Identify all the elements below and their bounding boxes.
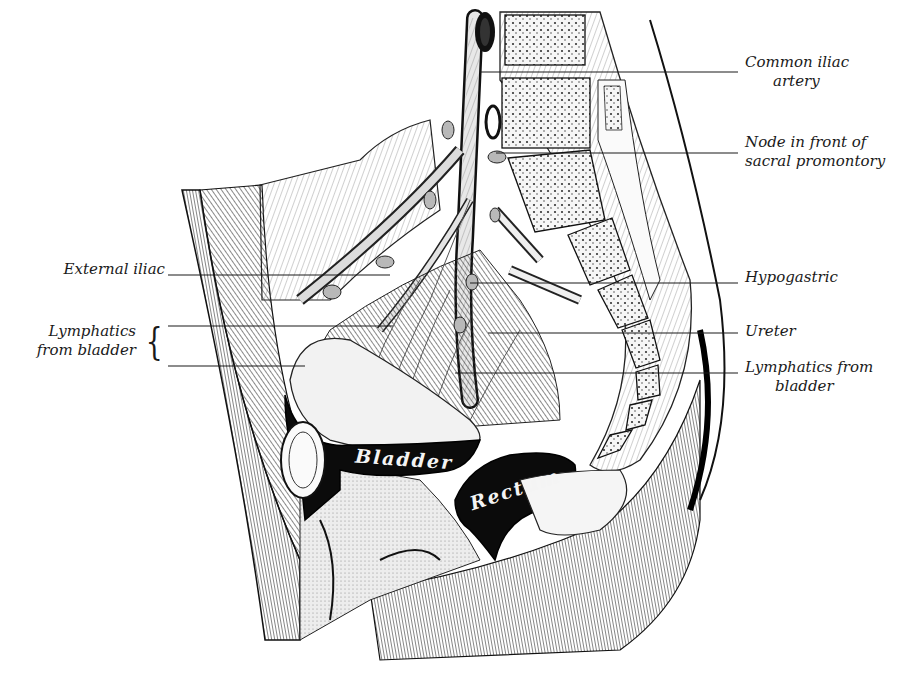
label-lymph-right-line2: bladder bbox=[745, 377, 873, 396]
label-hypogastric: Hypogastric bbox=[745, 268, 838, 287]
label-common-iliac-line2: artery bbox=[745, 72, 849, 91]
label-hypogastric-text: Hypogastric bbox=[745, 268, 838, 286]
label-ureter: Ureter bbox=[745, 322, 796, 341]
label-lymph-left-line2: from bladder bbox=[8, 341, 136, 360]
label-lymphatics-from-bladder-left: Lymphatics from bladder bbox=[8, 322, 136, 360]
label-lymphatics-from-bladder-right: Lymphatics from bladder bbox=[745, 358, 873, 396]
label-node-sacral-line2: sacral promontory bbox=[745, 152, 885, 171]
label-lymph-right-line1: Lymphatics from bbox=[745, 358, 873, 376]
pelvis-illustration bbox=[0, 0, 916, 688]
label-ureter-text: Ureter bbox=[745, 322, 796, 340]
label-common-iliac-artery: Common iliac artery bbox=[745, 53, 849, 91]
iliacus-muscle bbox=[260, 120, 440, 300]
label-external-iliac: External iliac bbox=[30, 260, 165, 279]
label-node-sacral-promontory: Node in front of sacral promontory bbox=[745, 133, 885, 171]
brace-icon: { bbox=[146, 322, 163, 360]
anatomical-figure: Common iliac artery Node in front of sac… bbox=[0, 0, 916, 688]
label-lymph-left-line1: Lymphatics bbox=[8, 322, 136, 341]
label-external-iliac-text: External iliac bbox=[64, 260, 165, 278]
label-node-sacral-line1: Node in front of bbox=[745, 133, 866, 151]
label-common-iliac-line1: Common iliac bbox=[745, 53, 849, 71]
